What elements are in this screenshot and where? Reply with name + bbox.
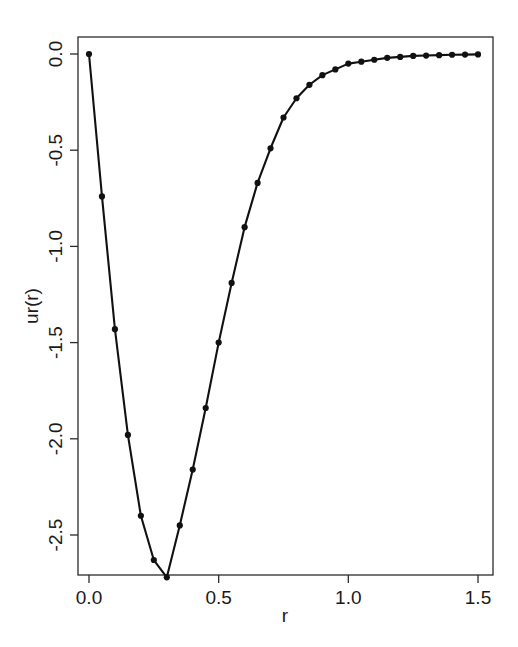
y-tick-label: -2.5 <box>45 519 66 552</box>
data-point-marker <box>203 405 209 411</box>
data-point-marker <box>280 114 286 120</box>
data-point-marker <box>99 193 105 199</box>
y-axis-ticks <box>70 54 78 535</box>
data-point-marker <box>475 51 481 57</box>
x-tick-label: 1.0 <box>335 587 361 608</box>
x-axis-title: r <box>282 605 289 626</box>
y-tick-label: -2.0 <box>45 422 66 455</box>
y-axis-title: ur(r) <box>21 288 42 324</box>
data-point-marker <box>164 574 170 580</box>
x-tick-label: 0.5 <box>205 587 231 608</box>
data-point-marker <box>332 66 338 72</box>
x-tick-label: 0.0 <box>76 587 102 608</box>
y-axis-tick-labels: 0.0-0.5-1.0-1.5-2.0-2.5 <box>45 41 66 552</box>
data-point-marker <box>306 82 312 88</box>
data-point-marker <box>177 522 183 528</box>
data-point-marker <box>462 51 468 57</box>
x-axis-ticks <box>89 575 478 583</box>
data-point-marker <box>449 52 455 58</box>
data-point-marker <box>216 340 222 346</box>
data-point-marker <box>319 72 325 78</box>
data-point-marker <box>358 59 364 65</box>
data-point-marker <box>384 55 390 61</box>
data-point-marker <box>125 432 131 438</box>
data-point-marker <box>138 513 144 519</box>
data-point-marker <box>86 51 92 57</box>
data-point-marker <box>436 52 442 58</box>
line-chart-plot: 0.00.51.01.5 0.0-0.5-1.0-1.5-2.0-2.5 r u… <box>0 0 518 647</box>
data-point-marker <box>293 95 299 101</box>
y-tick-label: -1.5 <box>45 326 66 359</box>
data-point-marker <box>371 57 377 63</box>
data-point-marker <box>151 557 157 563</box>
data-point-marker <box>423 52 429 58</box>
data-point-marker <box>242 224 248 230</box>
data-point-marker <box>410 53 416 59</box>
data-point-markers <box>86 51 481 581</box>
data-point-marker <box>254 180 260 186</box>
y-tick-label: 0.0 <box>45 41 66 67</box>
chart-figure: 0.00.51.01.5 0.0-0.5-1.0-1.5-2.0-2.5 r u… <box>0 0 518 647</box>
data-point-marker <box>397 54 403 60</box>
data-point-marker <box>267 145 273 151</box>
x-tick-label: 1.5 <box>465 587 491 608</box>
series-line-ur <box>89 54 478 577</box>
data-series-ur <box>89 54 478 577</box>
y-tick-label: -0.5 <box>45 134 66 167</box>
data-point-marker <box>345 61 351 67</box>
data-point-marker <box>190 466 196 472</box>
data-point-marker <box>229 280 235 286</box>
y-tick-label: -1.0 <box>45 230 66 263</box>
data-point-marker <box>112 326 118 332</box>
